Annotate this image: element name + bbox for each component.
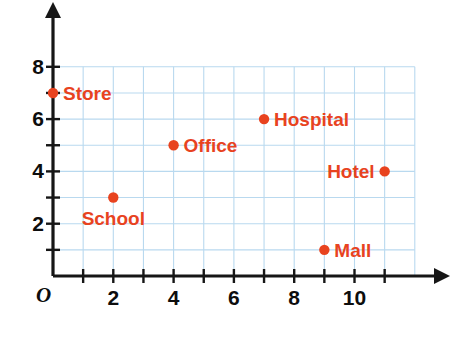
origin-label: O xyxy=(36,283,51,307)
y-axis-tick-label: 4 xyxy=(32,159,44,182)
x-axis-tick-label: 10 xyxy=(343,286,366,309)
data-point-label-hotel: Hotel xyxy=(327,161,375,182)
coordinate-plane-scatter-plot: 2468102468 StoreSchoolOfficeHospitalHote… xyxy=(0,0,454,340)
y-axis-tick-label: 2 xyxy=(32,212,44,235)
y-axis-tick-label: 6 xyxy=(32,107,44,130)
y-axis-tick-label: 8 xyxy=(32,55,44,78)
x-axis-tick-label: 4 xyxy=(168,286,180,309)
data-point-label-mall: Mall xyxy=(334,240,371,261)
data-point-store[interactable] xyxy=(48,88,58,98)
data-point-label-school: School xyxy=(82,208,145,229)
x-axis-tick-label: 2 xyxy=(107,286,119,309)
x-axis-tick-label: 8 xyxy=(288,286,300,309)
x-axis-arrow-icon xyxy=(434,268,450,284)
data-point-label-office: Office xyxy=(184,135,238,156)
data-point-hotel[interactable] xyxy=(379,166,389,176)
data-point-label-store: Store xyxy=(63,83,112,104)
x-axis-tick-label: 6 xyxy=(228,286,240,309)
y-axis-arrow-icon xyxy=(45,2,61,18)
axes xyxy=(45,2,450,284)
data-point-office[interactable] xyxy=(168,140,178,150)
data-point-school[interactable] xyxy=(108,192,118,202)
data-point-mall[interactable] xyxy=(319,245,329,255)
data-point-hospital[interactable] xyxy=(259,114,269,124)
data-point-label-hospital: Hospital xyxy=(274,109,349,130)
